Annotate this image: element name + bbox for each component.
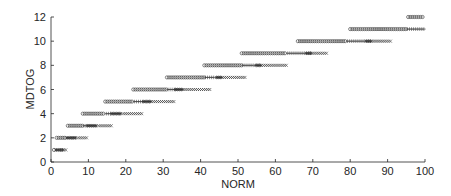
marker-circle [102, 112, 105, 115]
marker-cross [140, 112, 143, 115]
marker-star [74, 136, 78, 140]
y-tick-label: 0 [40, 156, 46, 168]
x-tick-label: 10 [82, 165, 94, 177]
marker-cross [85, 136, 88, 139]
marker-star [118, 112, 122, 116]
data-markers [52, 15, 425, 151]
y-tick-label: 4 [40, 108, 46, 120]
x-axis-label: NORM [221, 178, 255, 190]
marker-circle [421, 15, 424, 18]
y-tick-label: 6 [40, 84, 46, 96]
marker-cross [325, 52, 328, 55]
x-tick-label: 60 [269, 165, 281, 177]
y-tick-label: 2 [40, 132, 46, 144]
x-tick-label: 0 [48, 165, 54, 177]
marker-cross [389, 40, 392, 43]
x-tick-label: 40 [194, 165, 206, 177]
marker-cross [172, 100, 175, 103]
chart-axes: 0102030405060708090100024681012 [34, 11, 434, 177]
y-axis-label: MDTOG [24, 69, 36, 110]
marker-cross [64, 148, 67, 151]
y-tick-label: 12 [34, 11, 46, 23]
x-tick-label: 20 [120, 165, 132, 177]
scatter-chart: 0102030405060708090100024681012 NORM MDT… [0, 0, 451, 196]
x-tick-label: 80 [344, 165, 356, 177]
x-tick-label: 100 [416, 165, 434, 177]
marker-cross [285, 64, 288, 67]
x-tick-label: 90 [381, 165, 393, 177]
x-tick-label: 30 [157, 165, 169, 177]
marker-plus [422, 27, 426, 31]
x-tick-label: 70 [307, 165, 319, 177]
marker-cross [110, 124, 113, 127]
marker-star [94, 124, 98, 128]
y-tick-label: 10 [34, 35, 46, 47]
marker-cross [243, 76, 246, 79]
y-tick-label: 8 [40, 59, 46, 71]
marker-cross [208, 88, 211, 91]
x-tick-label: 50 [232, 165, 244, 177]
